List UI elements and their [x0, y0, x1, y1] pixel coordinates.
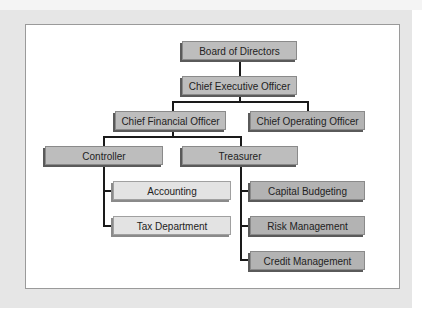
node-tax-department: Tax Department [113, 216, 231, 235]
node-treasurer: Treasurer [182, 146, 298, 165]
node-capital-budgeting: Capital Budgeting [250, 181, 365, 200]
connector-to-tax [103, 225, 113, 227]
node-accounting: Accounting [113, 181, 231, 200]
top-margin [0, 0, 422, 10]
connector-to-credit-management [240, 259, 250, 261]
node-credit-management: Credit Management [250, 251, 365, 270]
connector-to-coo [307, 101, 309, 111]
node-board-of-directors: Board of Directors [182, 41, 297, 60]
node-chief-financial-officer: Chief Financial Officer [115, 111, 226, 130]
connector-controller-vertical [103, 165, 105, 226]
connector-treasurer-vertical [240, 165, 242, 261]
node-chief-operating-officer: Chief Operating Officer [250, 111, 365, 130]
connector-cfo-horizontal [103, 136, 242, 138]
node-risk-management: Risk Management [250, 216, 365, 235]
connector-to-controller [103, 136, 105, 146]
connector-to-treasurer [240, 136, 242, 146]
node-controller: Controller [45, 146, 163, 165]
connector-to-capital-budgeting [240, 190, 250, 192]
node-chief-executive-officer: Chief Executive Officer [182, 76, 297, 95]
connector-to-accounting [103, 190, 113, 192]
connector-ceo-horizontal [172, 101, 309, 103]
connector-to-cfo [172, 101, 174, 111]
connector-to-risk-management [240, 225, 250, 227]
connector-board-ceo [239, 61, 241, 76]
